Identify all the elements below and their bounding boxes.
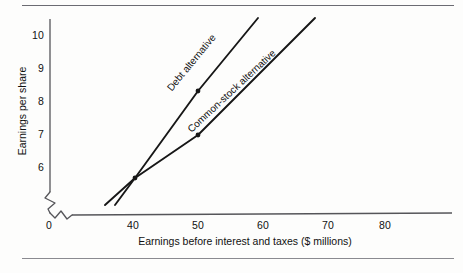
x-tick-label-70: 70 [313,219,343,231]
x-tick-label-0: 0 [34,219,64,231]
x-axis-title: Earnings before interest and taxes ($ mi… [90,235,400,247]
data-point-marker [196,89,201,94]
y-tick-label-10: 10 [20,29,44,41]
data-point-marker [196,133,201,138]
y-axis-break-icon [45,192,55,213]
x-axis-line [72,213,452,215]
x-tick-label-40: 40 [118,219,148,231]
plot-area [0,0,463,273]
x-axis-break-icon [50,211,72,219]
x-tick-label-50: 50 [183,219,213,231]
x-tick-label-60: 60 [248,219,278,231]
figure-container: 10 9 8 7 6 0 40 50 60 70 80 Earnings per… [0,0,463,273]
x-tick-label-80: 80 [370,219,400,231]
series-line-debt [105,18,258,205]
data-point-marker [133,176,138,181]
y-axis-title: Earnings per share [16,51,28,171]
